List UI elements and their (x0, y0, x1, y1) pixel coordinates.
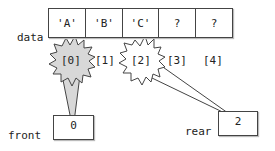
index-label-4: [4] (203, 54, 223, 67)
rear-label: rear (185, 125, 212, 138)
front-label: front (8, 129, 41, 142)
array-cell-0: 'A' (48, 8, 86, 38)
array-cell-1: 'B' (85, 8, 123, 38)
index-label-0: [0] (61, 54, 81, 67)
index-label-3: [3] (167, 54, 187, 67)
array-cell-4: ? (195, 8, 233, 38)
index-label-1: [1] (95, 54, 115, 67)
array-cell-3: ? (158, 8, 196, 38)
index-label-2: [2] (131, 54, 151, 67)
rear-value-box: 2 (218, 111, 258, 136)
front-value-box: 0 (53, 115, 94, 140)
array-cell-2: 'C' (122, 8, 159, 38)
array-name-label: data (17, 31, 44, 44)
